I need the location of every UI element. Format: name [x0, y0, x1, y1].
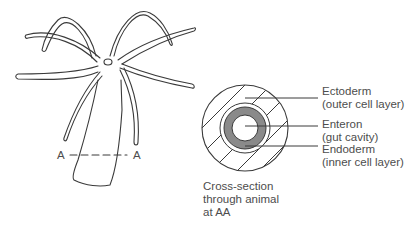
label-enteron: Enteron (gut cavity)	[322, 118, 378, 144]
cross-section-caption: Cross-section through animal at AA	[203, 180, 279, 219]
caption-line-3: at AA	[203, 206, 279, 219]
section-marker-right: A	[133, 149, 141, 162]
ectoderm-detail: (outer cell layer)	[322, 98, 404, 111]
caption-line-2: through animal	[203, 193, 279, 206]
endoderm-detail: (inner cell layer)	[322, 156, 404, 169]
caption-line-1: Cross-section	[203, 180, 279, 193]
cross-section	[186, 74, 318, 190]
label-ectoderm: Ectoderm (outer cell layer)	[322, 85, 404, 111]
ectoderm-name: Ectoderm	[322, 85, 404, 98]
enteron-name: Enteron	[322, 118, 378, 131]
section-marker-left: A	[57, 149, 65, 162]
hydra-organism	[16, 12, 196, 186]
endoderm-name: Endoderm	[322, 143, 404, 156]
label-endoderm: Endoderm (inner cell layer)	[322, 143, 404, 169]
enteron-cavity	[232, 115, 258, 141]
